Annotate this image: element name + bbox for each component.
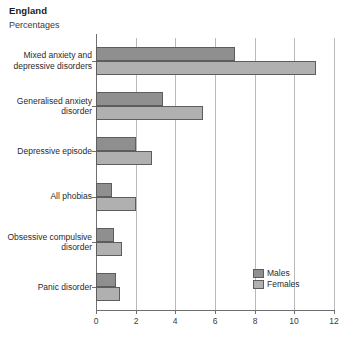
bar-males: [96, 228, 114, 242]
x-axis-tick-mark: [175, 310, 176, 314]
bar-males: [96, 183, 112, 197]
y-axis-category-label: Generalised anxiety disorder: [17, 96, 92, 117]
legend-item-females: Females: [253, 279, 300, 290]
legend-swatch-females-icon: [253, 280, 264, 289]
gridline: [334, 38, 335, 310]
y-axis-category-label: All phobias: [50, 191, 92, 202]
bar-females: [96, 287, 120, 301]
legend-label-females: Females: [267, 279, 300, 290]
x-axis-tick-mark: [96, 310, 97, 314]
chart-legend: Males Females: [253, 268, 300, 290]
x-axis-tick-label: 10: [289, 316, 298, 326]
y-axis-line: [96, 34, 97, 312]
gridline: [175, 38, 176, 310]
bar-males: [96, 47, 235, 61]
bar-females: [96, 197, 136, 211]
bar-females: [96, 61, 316, 75]
bar-females: [96, 151, 152, 165]
y-axis-category-label: Obsessive compulsive disorder: [7, 232, 92, 253]
bar-males: [96, 273, 116, 287]
gridline: [215, 38, 216, 310]
x-axis-tick-label: 4: [173, 316, 178, 326]
bar-chart: 024681012 Mixed anxiety and depressive d…: [0, 0, 346, 338]
x-axis-tick-mark: [294, 310, 295, 314]
bar-males: [96, 137, 136, 151]
y-axis-category-label: Mixed anxiety and depressive disorders: [14, 50, 92, 71]
bar-females: [96, 106, 203, 120]
x-axis-tick-label: 2: [134, 316, 139, 326]
x-axis-tick-mark: [136, 310, 137, 314]
bar-females: [96, 242, 122, 256]
x-axis-tick-mark: [255, 310, 256, 314]
x-axis-tick-mark: [215, 310, 216, 314]
x-axis-tick-label: 8: [253, 316, 258, 326]
y-axis-category-label: Panic disorder: [38, 282, 92, 293]
x-axis-tick-label: 12: [329, 316, 338, 326]
legend-item-males: Males: [253, 268, 300, 279]
x-axis-tick-label: 0: [94, 316, 99, 326]
x-axis-tick-mark: [334, 310, 335, 314]
x-axis-tick-label: 6: [213, 316, 218, 326]
y-axis-category-label: Depressive episode: [17, 146, 92, 157]
legend-swatch-males-icon: [253, 269, 264, 278]
gridline: [136, 38, 137, 310]
legend-label-males: Males: [267, 268, 290, 279]
bar-males: [96, 92, 163, 106]
